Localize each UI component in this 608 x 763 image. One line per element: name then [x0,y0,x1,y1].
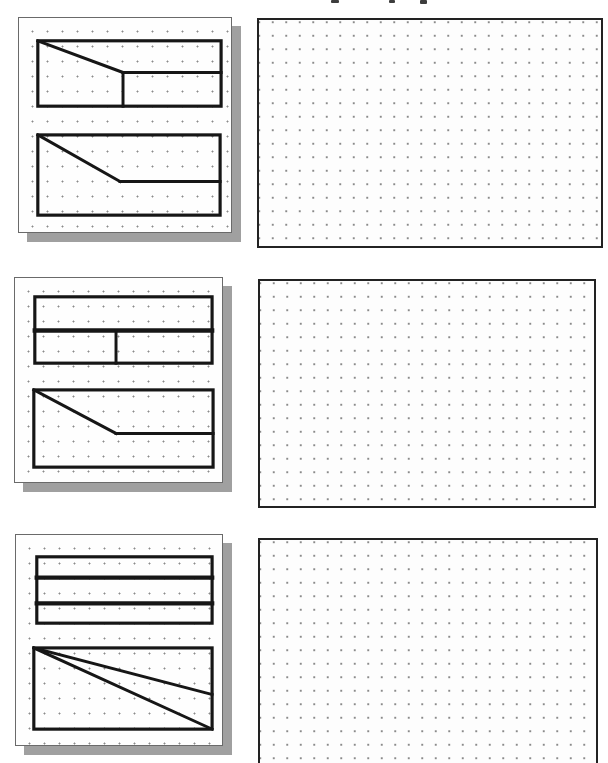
lower-view-outline [34,390,213,467]
upper-view-edge-line [38,41,123,73]
sketch-grid-panel [257,18,603,248]
exercise-row [0,0,608,763]
cropped-text-mark [331,0,339,3]
lower-view-outline [38,135,220,215]
orthographic-views-drawing [16,535,222,745]
upper-view-outline [38,41,221,106]
lower-view-edge-line [34,390,116,434]
cropped-text-mark [420,0,427,4]
workbook-page [0,0,608,763]
orthographic-views-drawing [15,278,222,482]
lower-view-edge-line [38,135,120,182]
given-views-card [15,534,223,746]
exercise-row [0,0,608,763]
sketch-grid-panel [258,279,596,508]
lower-view-outline [34,648,212,729]
lower-view-edge-line [34,648,212,695]
exercise-row [0,0,608,763]
lower-view-edge-line [34,648,212,729]
given-views-card [14,277,223,483]
given-views-card [18,17,232,233]
cropped-text-mark [389,0,395,3]
upper-view-outline [37,557,212,623]
sketch-grid-panel [258,538,598,763]
orthographic-views-drawing [19,18,231,232]
upper-view-outline [35,297,212,363]
